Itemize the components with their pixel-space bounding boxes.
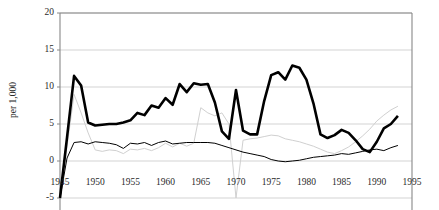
x-tick-label: 1945 [40,178,80,188]
x-tick-label: 1970 [216,178,256,188]
x-tick-label: 1995 [392,178,432,188]
y-axis-title: per 1,000 [8,70,18,130]
y-tick-label: 10 [20,82,54,92]
y-tick-label: 0 [20,156,54,166]
gridlines [60,13,412,198]
x-tick-label: 1950 [75,178,115,188]
x-tick-label: 1985 [322,178,362,188]
y-tick-label: -5 [20,193,54,203]
y-tick-label: 5 [20,119,54,129]
x-tick-label: 1980 [286,178,326,188]
x-tick-label: 1965 [181,178,221,188]
chart-container: per 1,000 -505101520 1945195019551960196… [0,0,439,210]
x-tick-label: 1955 [110,178,150,188]
y-tick-label: 20 [20,8,54,18]
y-tick-label: 15 [20,45,54,55]
x-tick-label: 1960 [146,178,186,188]
x-tick-label: 1975 [251,178,291,188]
x-tick-label: 1990 [357,178,397,188]
